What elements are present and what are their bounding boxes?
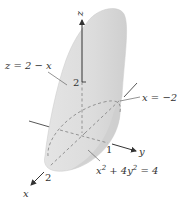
- y-tick-label: 1: [106, 144, 112, 155]
- x-axis-label: x: [23, 188, 29, 199]
- y-axis: [112, 144, 136, 151]
- x-neg-axis-line: [124, 83, 137, 97]
- z-tick-label: 2: [73, 77, 79, 88]
- x-neg-equation-label: x = −2: [142, 92, 177, 103]
- xneg-leader: [120, 97, 140, 101]
- solid-region-figure: z 2 1 y 2 x z = 2 − x x = −2 x2 + 4y2 = …: [0, 0, 178, 201]
- x-tick-label: 2: [45, 172, 51, 183]
- z-axis-label: z: [76, 10, 87, 17]
- ellipse-equation-label: x2 + 4y2 = 4: [96, 164, 158, 176]
- y-axis-label: y: [138, 146, 145, 157]
- solid-surface: [44, 9, 126, 172]
- x-axis: [31, 172, 44, 185]
- plane-equation-label: z = 2 − x: [4, 60, 52, 71]
